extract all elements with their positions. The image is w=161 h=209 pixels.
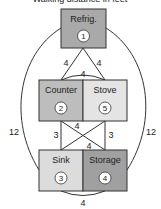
kitchen-layout-diagram: Walking distance in feet Refrig. 1 Count… (0, 0, 161, 209)
svg-text:5: 5 (103, 104, 108, 113)
svg-text:Storage: Storage (89, 155, 121, 165)
svg-text:1: 1 (81, 32, 86, 41)
node-storage: Storage 4 (83, 150, 127, 191)
svg-text:Stove: Stove (93, 85, 116, 95)
svg-text:Sink: Sink (52, 155, 70, 165)
diagram-title: Walking distance in feet (33, 0, 128, 4)
distance-label: 12 (146, 127, 156, 137)
node-sink: Sink 3 (39, 150, 83, 191)
node-refrigerator: Refrig. 1 (61, 9, 106, 48)
svg-text:Counter: Counter (45, 85, 77, 95)
distance-label: 4 (63, 58, 68, 68)
node-counter: Counter 2 (39, 80, 83, 121)
distance-label: 12 (9, 127, 19, 137)
distance-label: 3 (53, 130, 58, 140)
distance-label: 4 (86, 141, 91, 151)
distance-label: 3 (108, 130, 113, 140)
svg-text:3: 3 (59, 174, 64, 183)
distance-label: 4 (74, 121, 79, 131)
svg-text:4: 4 (103, 174, 108, 183)
svg-text:Refrig.: Refrig. (70, 14, 97, 24)
distance-label: 4 (80, 198, 85, 208)
svg-text:2: 2 (59, 104, 64, 113)
edge-3-4 (61, 191, 105, 196)
distance-label: 4 (96, 58, 101, 68)
distance-label: 4 (80, 69, 85, 79)
node-stove: Stove 5 (83, 80, 127, 121)
